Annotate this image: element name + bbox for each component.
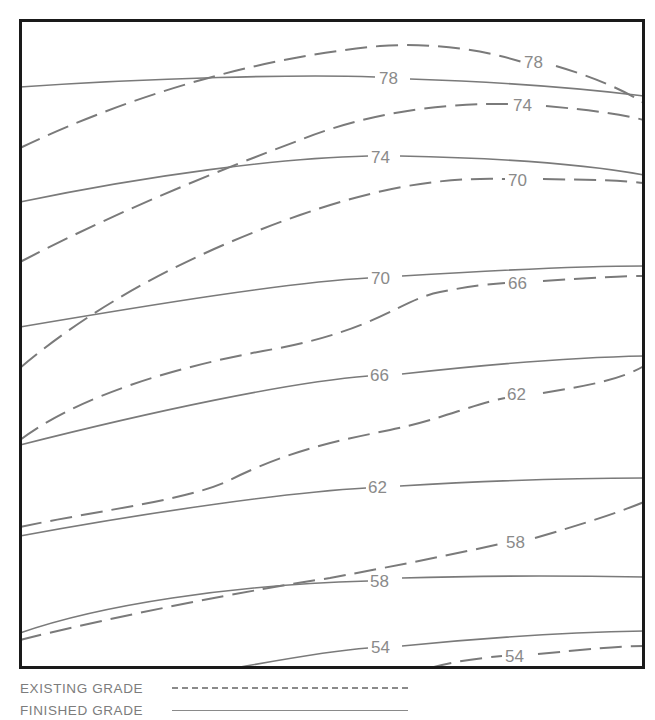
finished-label-54: 54 [371,638,390,657]
existing-label-58: 58 [506,533,525,552]
existing-contour-54 [430,646,644,668]
finished-contour-70 [20,266,644,327]
existing-label-78: 78 [524,53,543,72]
existing-label-74: 74 [513,96,532,115]
legend-finished-label: FINISHED GRADE [20,703,172,718]
finished-label-58: 58 [370,572,389,591]
legend-existing-grade: EXISTING GRADE [20,677,408,699]
finished-contour-66 [20,356,644,445]
existing-contour-labels: 78 74 70 66 62 58 54 [505,53,543,666]
existing-label-70: 70 [508,171,527,190]
site-boundary-frame [21,21,644,668]
existing-label-62: 62 [507,385,526,404]
finished-label-62: 62 [368,478,387,497]
finished-label-74: 74 [371,148,390,167]
existing-contour-78 [20,45,644,148]
finished-grade-contours [20,76,644,668]
finished-contour-62 [20,478,644,536]
existing-label-66: 66 [508,274,527,293]
legend-finished-grade: FINISHED GRADE [20,699,408,720]
dashed-line-swatch-icon [172,687,408,689]
finished-contour-labels: 78 74 70 66 62 58 54 [368,69,398,657]
legend-existing-label: EXISTING GRADE [20,681,172,696]
existing-contour-70 [20,179,644,368]
legend: EXISTING GRADE FINISHED GRADE [20,677,408,720]
existing-grade-contours [20,45,644,668]
existing-label-54: 54 [505,647,524,666]
finished-contour-78 [20,76,644,96]
existing-contour-66 [20,276,644,440]
finished-contour-58 [20,576,644,633]
solid-line-swatch-icon [172,710,408,711]
contour-grading-diagram: 78 74 70 66 62 58 54 78 74 70 66 62 58 5… [0,0,655,720]
existing-contour-74 [20,104,644,262]
finished-label-70: 70 [371,269,390,288]
existing-contour-58 [20,502,644,640]
finished-label-78: 78 [379,69,398,88]
finished-label-66: 66 [370,366,389,385]
